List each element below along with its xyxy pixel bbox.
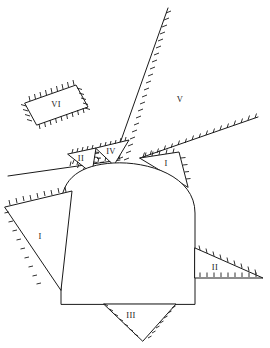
wedge-II-right-label: II xyxy=(212,262,218,272)
wedge-I-left-label: I xyxy=(38,231,41,241)
wedge-IV: IV xyxy=(95,137,129,166)
tunnel-opening xyxy=(61,163,195,304)
wedge-III-label: III xyxy=(126,310,135,320)
upper-right-joint-hatching xyxy=(143,114,257,158)
wedge-VI: VI xyxy=(21,80,90,129)
tunnel-wedge-diagram: VI II IV V I xyxy=(0,0,270,348)
wedge-VI-label: VI xyxy=(51,99,61,109)
wedge-IV-label: IV xyxy=(106,146,116,156)
zone-V-label: V xyxy=(177,94,184,104)
steep-joint-line xyxy=(113,8,168,163)
wedge-II-crown-label: II xyxy=(78,153,84,163)
wedge-II-right-outline xyxy=(195,248,263,278)
wedge-III-outline xyxy=(104,304,176,341)
wedge-II-right: II xyxy=(195,246,263,279)
wedge-I-left: I xyxy=(5,187,73,290)
wedge-III-invert: III xyxy=(104,304,176,341)
wedge-I-crown-label: I xyxy=(164,158,167,168)
diagram-canvas: VI II IV V I xyxy=(0,0,270,348)
tunnel-outline xyxy=(61,163,195,304)
